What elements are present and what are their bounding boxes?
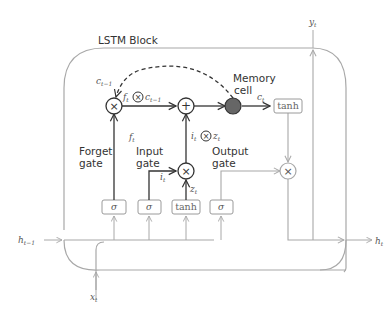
svg-text:×: × (135, 93, 142, 102)
label-zt: zt (212, 131, 221, 142)
label-h-prev: ht−1 (18, 235, 35, 246)
block-title: LSTM Block (98, 34, 159, 46)
label-it-small: it (160, 172, 166, 183)
svg-text:×: × (203, 132, 210, 141)
label-x-t: xt (90, 292, 98, 303)
svg-text:σ: σ (111, 202, 118, 212)
input-tanh-box: tanh (172, 200, 200, 214)
label-output-gate: Output gate (212, 145, 252, 169)
label-it: it (191, 131, 197, 142)
svg-text:tanh: tanh (175, 201, 197, 212)
output-multiply-op: × (280, 163, 296, 179)
forget-multiply-op: × (106, 98, 122, 114)
label-ht: ht (375, 236, 384, 247)
label-zt-small: zt (189, 184, 198, 195)
label-input-gate: Input gate (136, 145, 167, 169)
svg-text:×: × (181, 165, 190, 178)
forget-gate-sigma-box: σ (102, 200, 126, 214)
label-c-prev-top: ct−1 (96, 76, 112, 87)
input-multiply-op: × (178, 163, 194, 179)
label-ft: ft (122, 92, 129, 103)
label-forget-gate: Forget gate (79, 145, 116, 169)
label-c-prev: ct−1 (145, 92, 161, 103)
lstm-diagram: LSTM Block ht−1 xt σ σ tanh σ (0, 0, 392, 315)
cell-tanh-box: tanh (274, 99, 302, 113)
svg-text:tanh: tanh (277, 100, 299, 111)
svg-text:σ: σ (218, 202, 225, 212)
svg-text:+: + (181, 99, 191, 113)
svg-text:×: × (109, 100, 118, 113)
add-op: + (178, 98, 194, 114)
label-ft-vertical: ft (128, 132, 135, 143)
svg-text:×: × (283, 165, 292, 178)
label-ct: ct (257, 92, 265, 103)
output-gate-sigma-box: σ (210, 200, 233, 214)
memory-cell-node (225, 98, 241, 114)
input-bus (44, 216, 221, 300)
label-yt: yt (308, 17, 317, 28)
input-gate-sigma-box: σ (138, 200, 161, 214)
svg-text:σ: σ (146, 202, 153, 212)
